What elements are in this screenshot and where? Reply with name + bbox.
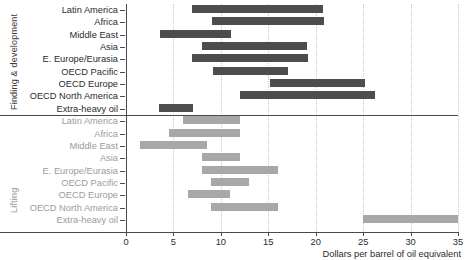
category-label: OECD Europe (8, 80, 118, 89)
group-label-lifting: Lifting (9, 188, 19, 213)
category-label: Extra-heavy oil (8, 216, 118, 225)
x-tick-label: 0 (123, 237, 128, 247)
category-tick (120, 59, 125, 60)
x-tick-5 (173, 232, 174, 236)
range-bar (188, 190, 231, 198)
range-bar (270, 79, 365, 87)
range-bar (192, 54, 308, 62)
category-tick (120, 183, 125, 184)
category-tick (120, 208, 125, 209)
category-label: E. Europe/Eurasia (8, 55, 118, 64)
x-tick-label: 10 (216, 237, 226, 247)
category-label: OECD Pacific (8, 68, 118, 77)
category-label: Africa (8, 18, 118, 27)
range-bar (202, 153, 240, 161)
range-bar (140, 141, 206, 149)
chart-container: Latin AmericaAfricaMiddle EastAsiaE. Eur… (0, 0, 467, 260)
category-label: Africa (8, 130, 118, 139)
x-tick-25 (363, 232, 364, 236)
range-bar (240, 91, 375, 99)
category-label: Asia (8, 154, 118, 163)
category-tick (120, 171, 125, 172)
category-tick (120, 195, 125, 196)
category-label: Latin America (8, 117, 118, 126)
range-bar (211, 178, 249, 186)
category-label: Asia (8, 43, 118, 52)
category-label: OECD Pacific (8, 179, 118, 188)
category-tick (120, 96, 125, 97)
plot-area (126, 4, 458, 232)
gridline-0 (126, 4, 128, 232)
category-label: OECD North America (8, 204, 118, 213)
x-axis-line (0, 232, 458, 233)
gridline-25 (363, 4, 365, 232)
category-tick (120, 109, 125, 110)
category-tick (120, 146, 125, 147)
category-label: OECD North America (8, 92, 118, 101)
range-bar (160, 30, 231, 38)
category-tick (120, 134, 125, 135)
category-tick (120, 47, 125, 48)
category-label: Middle East (8, 142, 118, 151)
group-label-finding-development: Finding & development (9, 14, 19, 110)
x-tick-15 (268, 232, 269, 236)
x-axis-title: Dollars per barrel of oil equivalent (323, 249, 462, 259)
category-tick (120, 84, 125, 85)
x-tick-20 (316, 232, 317, 236)
category-label: Latin America (8, 6, 118, 15)
x-tick-10 (221, 232, 222, 236)
category-tick (120, 220, 125, 221)
x-tick-label: 35 (453, 237, 463, 247)
x-tick-label: 20 (311, 237, 321, 247)
gridline-35 (458, 4, 460, 232)
range-bar (183, 116, 240, 124)
category-tick (120, 35, 125, 36)
category-label: Middle East (8, 31, 118, 40)
category-tick (120, 121, 125, 122)
x-tick-label: 5 (171, 237, 176, 247)
gridline-15 (268, 4, 270, 232)
range-bar (159, 104, 193, 112)
category-label: E. Europe/Eurasia (8, 167, 118, 176)
gridline-30 (411, 4, 413, 232)
x-tick-label: 30 (405, 237, 415, 247)
x-tick-0 (126, 232, 127, 236)
range-bar (212, 17, 324, 25)
category-tick (120, 10, 125, 11)
range-bar (169, 129, 240, 137)
range-bar (202, 166, 278, 174)
range-bar (213, 67, 288, 75)
category-tick (120, 72, 125, 73)
category-tick (120, 22, 125, 23)
x-tick-35 (458, 232, 459, 236)
category-label: Extra-heavy oil (8, 105, 118, 114)
range-bar (192, 5, 323, 13)
gridline-5 (173, 4, 175, 232)
x-tick-30 (411, 232, 412, 236)
x-tick-label: 25 (358, 237, 368, 247)
range-bar (202, 42, 307, 50)
category-label: OECD Europe (8, 191, 118, 200)
range-bar (363, 215, 458, 223)
gridline-20 (316, 4, 318, 232)
range-bar (211, 203, 277, 211)
x-tick-label: 15 (263, 237, 273, 247)
category-tick (120, 158, 125, 159)
